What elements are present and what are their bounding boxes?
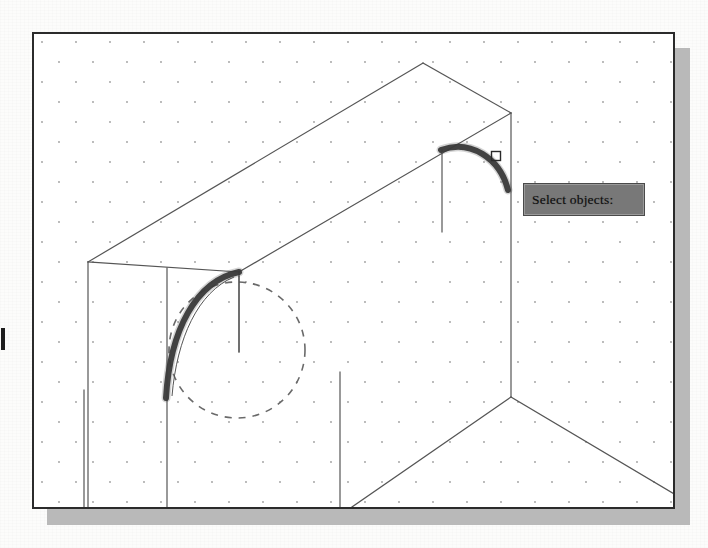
dot-grid: [41, 41, 672, 503]
page-root: Select objects:: [0, 0, 708, 548]
command-prompt-label: Select objects:: [524, 192, 613, 208]
command-prompt-tooltip[interactable]: Select objects:: [523, 183, 645, 216]
page-edge-tick: [1, 328, 5, 350]
model-wireframe: [84, 63, 673, 507]
cad-drawing-canvas[interactable]: [34, 34, 673, 507]
floor-line-left: [352, 397, 511, 507]
top-face-left-edge: [88, 63, 423, 262]
top-face-right-edge: [239, 113, 511, 272]
cad-viewport[interactable]: Select objects:: [32, 32, 675, 509]
left-fillet-arc: [166, 272, 239, 398]
floor-line-right: [511, 397, 673, 495]
top-face-bottom-left-edge: [88, 262, 239, 272]
top-face-top-right-edge: [423, 63, 511, 113]
